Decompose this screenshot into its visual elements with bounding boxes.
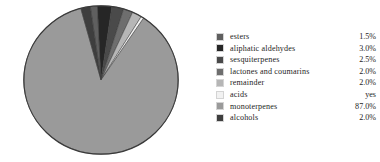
legend-item-sesquiterpenes: sesquiterpenes 2.5%	[216, 54, 376, 66]
legend-label: lactones and coumarins	[230, 66, 346, 78]
legend-label: acids	[230, 89, 346, 101]
chart-legend: esters 1.5% aliphatic aldehydes 3.0% ses…	[216, 31, 376, 124]
legend-value: 87.0%	[346, 101, 376, 113]
legend-swatch-icon	[216, 91, 224, 99]
legend-value: 2.0%	[346, 112, 376, 124]
legend-label: monoterpenes	[230, 101, 346, 113]
legend-item-alcohols: alcohols 2.0%	[216, 112, 376, 124]
legend-label: esters	[230, 31, 346, 43]
pie-chart-svg	[22, 4, 180, 156]
legend-label: sesquiterpenes	[230, 54, 346, 66]
pie-chart-figure: esters 1.5% aliphatic aldehydes 3.0% ses…	[0, 0, 380, 162]
legend-item-acids: acids yes	[216, 89, 376, 101]
legend-swatch-icon	[216, 33, 224, 41]
legend-swatch-icon	[216, 102, 224, 110]
legend-value: 3.0%	[346, 43, 376, 55]
legend-value: 1.5%	[346, 31, 376, 43]
legend-label: alcohols	[230, 112, 346, 124]
legend-item-monoterpenes: monoterpenes 87.0%	[216, 101, 376, 113]
legend-item-lactones-and-coumarins: lactones and coumarins 2.0%	[216, 66, 376, 78]
legend-swatch-icon	[216, 44, 224, 52]
legend-value: yes	[346, 89, 376, 101]
legend-item-remainder: remainder 2.0%	[216, 77, 376, 89]
legend-swatch-icon	[216, 114, 224, 122]
legend-item-esters: esters 1.5%	[216, 31, 376, 43]
legend-item-aliphatic-aldehydes: aliphatic aldehydes 3.0%	[216, 43, 376, 55]
legend-label: aliphatic aldehydes	[230, 43, 346, 55]
legend-swatch-icon	[216, 68, 224, 76]
legend-value: 2.0%	[346, 66, 376, 78]
pie-chart	[22, 4, 180, 156]
legend-label: remainder	[230, 77, 346, 89]
legend-value: 2.0%	[346, 77, 376, 89]
legend-value: 2.5%	[346, 54, 376, 66]
legend-swatch-icon	[216, 56, 224, 64]
legend-swatch-icon	[216, 79, 224, 87]
pie-slice-group	[24, 6, 178, 154]
